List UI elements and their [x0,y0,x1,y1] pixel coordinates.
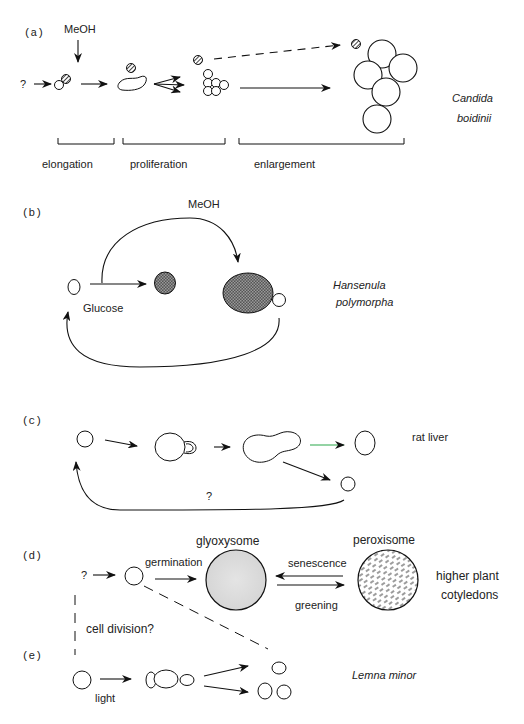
peroxisome-hatched-icon [352,40,361,49]
light-label: light [95,692,115,704]
small-cell-icon [73,671,91,689]
proliferating-cluster-icon [204,70,229,96]
panel-d: (d) glyoxysome peroxisome ? germination … [22,533,499,655]
arrow-c4 [283,462,330,480]
small-cell-icon [125,567,143,585]
stage-enlargement: enlargement [254,158,315,170]
panel-a: (a) MeOH ? [20,23,493,170]
stage-proliferation: proliferation [130,158,187,170]
organism-a-line1: Candida [452,92,493,104]
small-daughter-icon [341,477,355,491]
meoh-label-a: MeOH [64,23,96,35]
panel-d-label: (d) [22,550,42,562]
arrow-c1 [105,440,137,446]
organism-c: rat liver [412,431,448,443]
small-cell-icon [68,280,80,295]
medium-peroxisome-icon [155,272,176,294]
germination-label: germination [145,556,202,568]
peroxisome-hatched-icon [194,56,203,65]
small-cell-icon [77,431,93,447]
peroxisome-biogenesis-diagram: (a) MeOH ? [0,0,524,724]
peroxisome-hatched-icon [62,75,71,84]
origin-question-d: ? [81,569,87,581]
daughter-organelle-icon [272,662,286,674]
dashed-arrow-a [214,45,340,59]
daughter-organelle-icon [258,683,272,699]
panel-e-label: (e) [22,650,42,662]
peroxisome-hatched-icon [127,64,136,73]
bracket-proliferation [123,138,225,144]
budding-cell-icon [273,294,286,307]
daughter-organelle-icon [355,431,375,455]
panel-b-label: (b) [22,207,42,219]
stage-elongation: elongation [42,158,93,170]
organism-d-line2: cotyledons [441,588,498,602]
budding-organelle-icon [155,433,185,461]
organism-b-line1: Hansenula [333,279,386,291]
glyoxysome-label: glyoxysome [196,534,260,548]
enlarged-cluster-icon [354,40,417,133]
panel-c-label: (c) [22,415,42,427]
dividing-organelle-chain-icon [146,670,194,688]
organism-b-line2: polymorpha [335,296,393,308]
return-arc-arrow [67,312,279,367]
organism-e: Lemna minor [352,669,418,681]
panel-c: (c) rat liver ? [22,415,448,510]
return-question-c: ? [206,490,212,502]
greening-label: greening [295,599,338,611]
dividing-organelle-icon [243,432,300,463]
origin-question-a: ? [20,78,26,90]
large-peroxisome-icon [223,273,273,313]
meoh-label-b: MeOH [188,198,220,210]
elongated-organelle-icon [118,76,146,90]
peroxisome-label: peroxisome [353,533,415,547]
glyoxysome-icon [206,550,266,610]
return-arc-c [76,462,344,510]
panel-a-label: (a) [24,27,44,39]
arrow-e2 [204,686,248,692]
daughter-organelle-icon [277,685,291,699]
panel-e: (e) light Lemna minor [22,650,418,704]
panel-b: (b) MeOH Glucose Hansenula polymorpha [22,198,393,367]
bracket-enlargement [239,138,404,144]
glucose-label: Glucose [83,302,123,314]
peroxisome-icon [358,550,418,610]
arrow-a3 [154,77,180,84]
organism-a-line2: boidinii [457,112,492,124]
senescence-label: senescence [288,557,347,569]
organism-d-line1: higher plant [436,569,499,583]
arrow-e1 [204,666,248,676]
cell-division-label: cell division? [86,622,154,636]
bracket-elongation [58,138,114,144]
